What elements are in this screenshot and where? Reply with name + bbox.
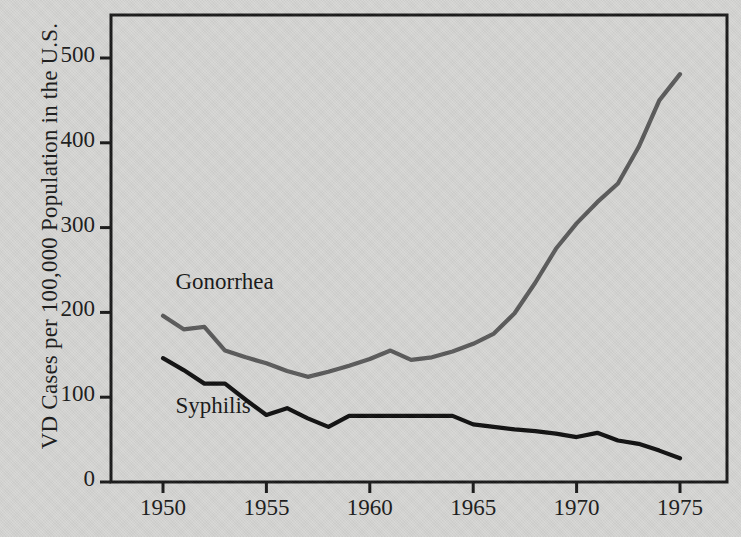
chart-figure: VD Cases per 100,000 Population in the U… (0, 0, 741, 537)
y-axis-ticks (100, 58, 111, 482)
x-tick-label: 1965 (433, 495, 513, 521)
x-tick-label: 1955 (226, 495, 306, 521)
y-axis-title: VD Cases per 100,000 Population in the U… (37, 1, 63, 471)
series-label-gonorrhea: Gonorrhea (175, 269, 273, 295)
series-label-syphilis: Syphilis (175, 393, 250, 419)
line-chart-plot (0, 0, 741, 537)
y-tick-label: 400 (61, 127, 96, 153)
y-tick-label: 300 (61, 212, 96, 238)
x-tick-label: 1960 (330, 495, 410, 521)
y-tick-label: 200 (61, 296, 96, 322)
y-tick-label: 500 (61, 42, 96, 68)
series-line-gonorrhea (163, 74, 680, 377)
y-tick-label: 0 (84, 466, 96, 492)
x-axis-ticks (163, 482, 680, 493)
x-tick-label: 1970 (537, 495, 617, 521)
x-tick-label: 1975 (640, 495, 720, 521)
y-tick-label: 100 (61, 381, 96, 407)
x-tick-label: 1950 (123, 495, 203, 521)
